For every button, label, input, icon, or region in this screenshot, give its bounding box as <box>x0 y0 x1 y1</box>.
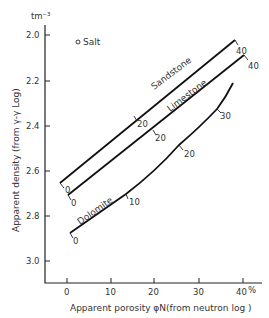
y-tick-label: 2.8 <box>26 211 40 221</box>
y-tick-label: 2.4 <box>26 121 40 131</box>
porosity-mark-label: 30 <box>220 111 231 121</box>
porosity-mark-label: 40 <box>236 46 247 56</box>
porosity-mark-label: 20 <box>184 149 195 159</box>
x-tick-label: 10 <box>105 287 116 297</box>
limestone-label: Limestone <box>165 77 209 113</box>
y-axis-label: Apparent density (from γ-γ Log) <box>11 88 21 232</box>
x-tick-label: 40 <box>236 287 247 297</box>
sandstone-label: Sandstone <box>149 55 193 92</box>
porosity-mark-label: 20 <box>137 119 148 129</box>
porosity-mark-label: 40 <box>248 61 259 71</box>
density-porosity-chart: tm⁻³ 2.0 2.2 2.4 2.6 2.8 3.0 0 10 20 30 … <box>0 0 269 318</box>
porosity-mark-label: 0 <box>71 198 76 208</box>
y-tick-label: 3.0 <box>26 256 40 266</box>
x-unit-label: % <box>248 285 256 295</box>
porosity-mark-label: 20 <box>155 133 166 143</box>
porosity-mark-label: 0 <box>73 236 78 246</box>
y-unit-label: tm⁻³ <box>31 11 51 21</box>
y-tick-label: 2.6 <box>26 166 40 176</box>
salt-point-marker <box>76 40 80 44</box>
dolomite-label: Dolomite <box>75 195 115 227</box>
x-tick-label: 0 <box>64 287 69 297</box>
x-axis-ticks: 0 10 20 30 40 % <box>64 278 256 297</box>
x-tick-label: 30 <box>193 287 204 297</box>
y-tick-label: 2.2 <box>26 76 40 86</box>
y-tick-label: 2.0 <box>26 30 40 40</box>
x-axis-label: Apparent porosity φN(from neutron log ) <box>70 303 252 313</box>
salt-label: Salt <box>83 37 101 47</box>
x-tick-label: 20 <box>148 287 159 297</box>
porosity-mark-label: 10 <box>129 197 140 207</box>
y-axis-ticks: 2.0 2.2 2.4 2.6 2.8 3.0 <box>26 30 50 266</box>
